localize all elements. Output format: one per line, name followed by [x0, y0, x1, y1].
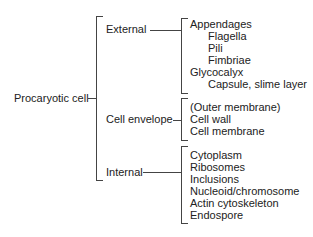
branch-external-bracket: [181, 18, 188, 94]
list-item: Pili: [190, 42, 307, 54]
main-bracket: [96, 16, 103, 181]
branch-external-list: Appendages Flagella Pili Fimbriae Glycoc…: [190, 18, 307, 90]
branch-cell-envelope-list: (Outer membrane) Cell wall Cell membrane: [190, 101, 280, 137]
list-item: Inclusions: [190, 173, 299, 185]
list-item: Cell membrane: [190, 125, 280, 137]
branch-external-label: External: [106, 23, 146, 35]
branch-cell-envelope-label: Cell envelope: [106, 113, 173, 125]
branch-internal-bracket: [181, 146, 188, 224]
branch-internal-connector: [143, 172, 181, 173]
list-item: Flagella: [190, 30, 307, 42]
root-label: Procaryotic cell: [14, 92, 89, 104]
branch-internal-list: Cytoplasm Ribosomes Inclusions Nucleoid/…: [190, 149, 299, 221]
list-item: Appendages: [190, 18, 307, 30]
list-item: (Outer membrane): [190, 101, 280, 113]
branch-cell-envelope-connector: [173, 120, 181, 121]
branch-cell-envelope-bracket: [181, 98, 188, 141]
list-item: Ribosomes: [190, 161, 299, 173]
list-item: Fimbriae: [190, 54, 307, 66]
list-item: Nucleoid/chromosome: [190, 185, 299, 197]
root-connector: [88, 98, 96, 99]
branch-external-connector: [150, 30, 181, 31]
list-item: Glycocalyx: [190, 66, 307, 78]
list-item: Cytoplasm: [190, 149, 299, 161]
list-item: Capsule, slime layer: [190, 78, 307, 90]
list-item: Endospore: [190, 209, 299, 221]
list-item: Cell wall: [190, 113, 280, 125]
branch-internal-label: Internal: [106, 166, 143, 178]
list-item: Actin cytoskeleton: [190, 197, 299, 209]
